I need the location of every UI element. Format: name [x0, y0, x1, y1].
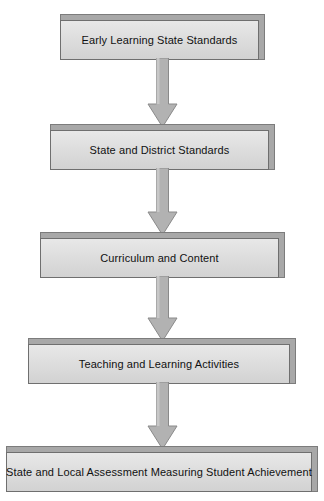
arrow-down-icon: [147, 58, 178, 128]
arrow-down-icon: [147, 168, 178, 236]
flow-node-teaching-and-learning-activities[interactable]: Teaching and Learning Activities: [28, 338, 296, 384]
node-front-face: Early Learning State Standards: [60, 20, 259, 60]
flow-arrow-down-1: [147, 58, 178, 128]
flow-node-label: Teaching and Learning Activities: [79, 359, 239, 370]
flow-arrow-down-4: [147, 382, 178, 450]
node-front-face: State and Local Assessment Measuring Stu…: [6, 452, 312, 492]
node-3d-shape: Early Learning State Standards: [60, 14, 265, 60]
node-3d-shape: State and Local Assessment Measuring Stu…: [6, 446, 318, 492]
flowchart-diagram: Early Learning State Standards State and…: [0, 0, 324, 501]
flow-node-state-and-district-standards[interactable]: State and District Standards: [50, 124, 275, 170]
node-front-face: State and District Standards: [50, 130, 269, 170]
node-3d-shape: Curriculum and Content: [40, 232, 285, 278]
node-3d-shape: State and District Standards: [50, 124, 275, 170]
flow-node-label: State and District Standards: [90, 145, 230, 156]
node-front-face: Curriculum and Content: [40, 238, 279, 278]
flow-arrow-down-3: [147, 276, 178, 342]
flow-node-label: Curriculum and Content: [100, 253, 218, 264]
node-front-face: Teaching and Learning Activities: [28, 344, 290, 384]
flow-node-curriculum-and-content[interactable]: Curriculum and Content: [40, 232, 285, 278]
flow-node-label: Early Learning State Standards: [82, 35, 238, 46]
flow-node-early-learning-state-standards[interactable]: Early Learning State Standards: [60, 14, 265, 60]
flow-arrow-down-2: [147, 168, 178, 236]
arrow-down-icon: [147, 276, 178, 342]
flow-node-state-and-local-assessment[interactable]: State and Local Assessment Measuring Stu…: [6, 446, 318, 492]
arrow-down-icon: [147, 382, 178, 450]
flow-node-label: State and Local Assessment Measuring Stu…: [6, 467, 312, 478]
node-3d-shape: Teaching and Learning Activities: [28, 338, 296, 384]
